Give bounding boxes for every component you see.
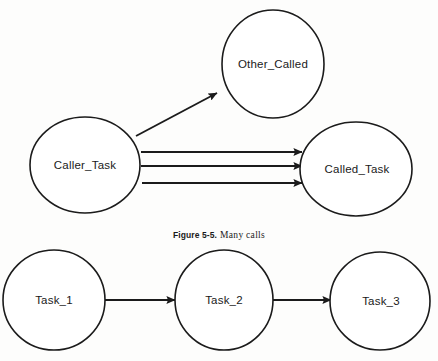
node-task-1[interactable]: Task_1 bbox=[3, 250, 105, 350]
node-called-task-label: Called_Task bbox=[325, 163, 390, 175]
figure-page: Other_Called Caller_Task Called_Task Tas… bbox=[0, 0, 438, 361]
node-caller-task-label: Caller_Task bbox=[54, 159, 116, 171]
node-other-called-label: Other_Called bbox=[238, 58, 308, 70]
edge-caller-task-to-other-called bbox=[136, 93, 217, 136]
node-called-task[interactable]: Called_Task bbox=[300, 122, 412, 216]
figure-caption: Figure 5-5.Many calls bbox=[0, 224, 438, 242]
node-other-called[interactable]: Other_Called bbox=[222, 10, 324, 118]
node-task-2-label: Task_2 bbox=[205, 294, 243, 306]
figure-caption-number: Figure 5-5. bbox=[173, 230, 217, 240]
node-task-1-label: Task_1 bbox=[35, 294, 73, 306]
call-graph-diagram: Other_Called Caller_Task Called_Task Tas… bbox=[0, 0, 438, 361]
node-task-3-label: Task_3 bbox=[362, 295, 400, 307]
node-task-3[interactable]: Task_3 bbox=[330, 252, 430, 350]
figure-caption-text: Many calls bbox=[217, 230, 265, 240]
node-caller-task[interactable]: Caller_Task bbox=[30, 117, 140, 213]
node-task-2[interactable]: Task_2 bbox=[175, 250, 273, 350]
